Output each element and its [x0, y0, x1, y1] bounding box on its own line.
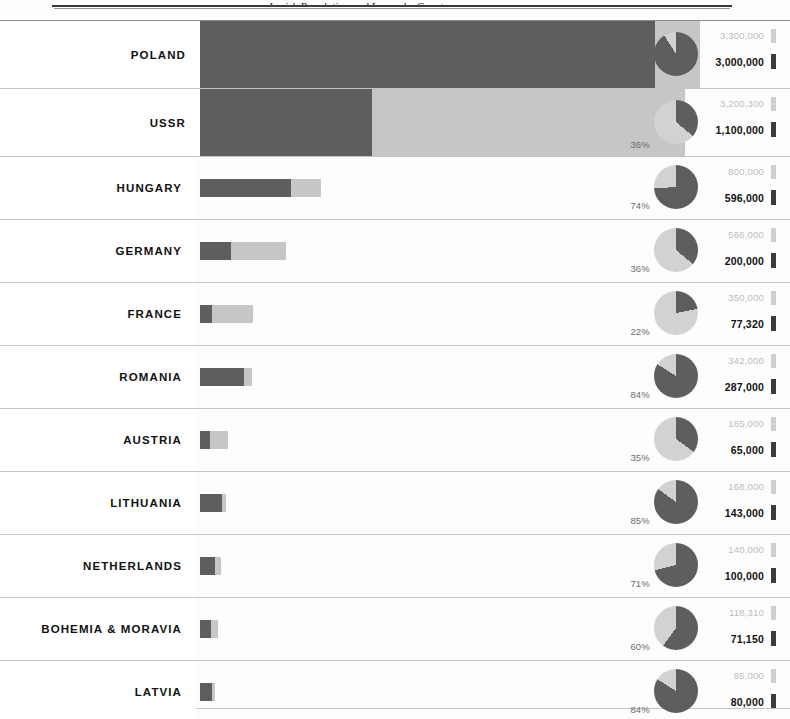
country-row[interactable]: AUSTRIA35%185,00065,000 — [0, 408, 790, 471]
country-name: ROMANIA — [119, 371, 182, 383]
percent-label: 85% — [630, 515, 650, 526]
population-value: 800,000 — [702, 166, 764, 177]
pie-shape — [654, 228, 698, 272]
killed-tick-marker — [771, 190, 776, 205]
killed-tick-marker — [771, 316, 776, 331]
population-value: 185,000 — [702, 418, 764, 429]
stacked-bar[interactable] — [200, 21, 700, 89]
country-name: USSR — [150, 117, 186, 129]
country-name: LATVIA — [135, 686, 182, 698]
stacked-bar[interactable] — [200, 494, 226, 512]
percent-label: 60% — [630, 641, 650, 652]
killed-tick-marker — [771, 694, 776, 709]
killed-tick-marker — [771, 379, 776, 394]
stacked-bar[interactable] — [200, 683, 215, 701]
value-column: 185,00065,000 — [700, 409, 786, 471]
country-label-cell: LATVIA — [0, 661, 196, 719]
country-row[interactable]: USSR36%3,200,3001,100,000 — [0, 88, 790, 156]
bar-segment-killed — [200, 242, 231, 260]
bar-segment-killed — [200, 683, 212, 701]
value-column: 800,000596,000 — [700, 157, 786, 219]
killed-value: 287,000 — [702, 381, 764, 393]
country-label-cell: NETHERLANDS — [0, 535, 196, 597]
percent-label: 84% — [630, 704, 650, 715]
pie-shape — [654, 100, 698, 144]
killed-value: 65,000 — [702, 444, 764, 456]
percent-label: 74% — [630, 200, 650, 211]
stacked-bar[interactable] — [200, 89, 685, 157]
country-label-cell: FRANCE — [0, 283, 196, 345]
percent-pie-chart — [654, 32, 700, 78]
country-rows: POLAND3,300,0003,000,000USSR36%3,200,300… — [0, 20, 790, 719]
country-row[interactable]: FRANCE22%350,00077,320 — [0, 282, 790, 345]
bar-segment-survived — [222, 494, 226, 512]
percent-pie-chart — [654, 417, 700, 463]
country-row[interactable]: LITHUANIA85%168,000143,000 — [0, 471, 790, 534]
country-label-cell: ROMANIA — [0, 346, 196, 408]
bar-segment-killed — [200, 620, 211, 638]
country-name: BOHEMIA & MORAVIA — [41, 623, 182, 635]
value-column: 3,200,3001,100,000 — [700, 89, 786, 156]
infographic-page: Jewish Population and Losses by Country … — [0, 0, 790, 719]
stacked-bar[interactable] — [200, 620, 218, 638]
killed-tick-marker — [771, 505, 776, 520]
bar-segment-survived — [244, 368, 253, 386]
stacked-bar[interactable] — [200, 179, 321, 197]
country-row[interactable]: NETHERLANDS71%140,000100,000 — [0, 534, 790, 597]
country-row[interactable]: HUNGARY74%800,000596,000 — [0, 156, 790, 219]
population-value: 168,000 — [702, 481, 764, 492]
bar-segment-killed — [200, 89, 372, 157]
population-value: 95,000 — [702, 670, 764, 681]
header-rule-thin — [54, 8, 730, 9]
bar-segment-survived — [212, 305, 254, 323]
country-label-cell: BOHEMIA & MORAVIA — [0, 598, 196, 660]
pie-shape — [654, 165, 698, 209]
percent-label: 35% — [630, 452, 650, 463]
bar-segment-survived — [291, 179, 322, 197]
population-value: 140,000 — [702, 544, 764, 555]
percent-label: 36% — [630, 263, 650, 274]
stacked-bar[interactable] — [200, 242, 286, 260]
population-tick-marker — [771, 417, 776, 431]
population-tick-marker — [771, 669, 776, 683]
stacked-bar[interactable] — [200, 368, 252, 386]
killed-tick-marker — [771, 253, 776, 268]
stacked-bar[interactable] — [200, 557, 221, 575]
population-value: 350,000 — [702, 292, 764, 303]
country-row[interactable]: BOHEMIA & MORAVIA60%118,31071,150 — [0, 597, 790, 660]
country-name: GERMANY — [116, 245, 182, 257]
bar-segment-killed — [200, 179, 291, 197]
population-tick-marker — [771, 354, 776, 368]
pie-shape — [654, 291, 698, 335]
country-name: AUSTRIA — [123, 434, 182, 446]
country-name: NETHERLANDS — [83, 560, 182, 572]
country-name: LITHUANIA — [110, 497, 182, 509]
percent-pie-chart — [654, 606, 700, 652]
bar-segment-survived — [210, 431, 228, 449]
country-row[interactable]: ROMANIA84%342,000287,000 — [0, 345, 790, 408]
country-label-cell: GERMANY — [0, 220, 196, 282]
killed-value: 3,000,000 — [702, 56, 764, 68]
stacked-bar[interactable] — [200, 431, 228, 449]
bar-segment-survived — [215, 557, 221, 575]
killed-value: 200,000 — [702, 255, 764, 267]
percent-pie-chart — [654, 228, 700, 274]
value-column: 3,300,0003,000,000 — [700, 21, 786, 88]
value-column: 168,000143,000 — [700, 472, 786, 534]
killed-value: 100,000 — [702, 570, 764, 582]
country-row[interactable]: POLAND3,300,0003,000,000 — [0, 20, 790, 88]
percent-pie-chart — [654, 480, 700, 526]
percent-pie-chart — [654, 354, 700, 400]
population-value: 566,000 — [702, 229, 764, 240]
country-row[interactable]: GERMANY36%566,000200,000 — [0, 219, 790, 282]
percent-label: 84% — [630, 389, 650, 400]
pie-shape — [654, 606, 698, 650]
value-column: 566,000200,000 — [700, 220, 786, 282]
pie-shape — [654, 32, 698, 76]
stacked-bar[interactable] — [200, 305, 253, 323]
country-row[interactable]: LATVIA84%95,00080,000 — [0, 660, 790, 719]
killed-tick-marker — [771, 122, 776, 137]
pie-shape — [654, 417, 698, 461]
bar-segment-survived — [211, 620, 218, 638]
value-column: 118,31071,150 — [700, 598, 786, 660]
